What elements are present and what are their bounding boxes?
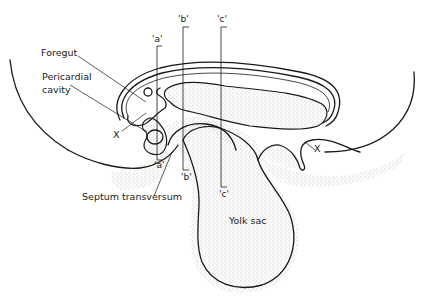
section-c-top-label: 'c' xyxy=(217,14,227,24)
label-foregut: Foregut xyxy=(41,47,78,58)
septum-mesoderm-stipple xyxy=(111,150,172,190)
label-septum-transversum: Septum transversum xyxy=(82,191,182,202)
label-x-left: X xyxy=(113,129,120,140)
label-yolk-sac: Yolk sac xyxy=(228,215,267,226)
section-a-bottom-label: 'a' xyxy=(154,160,164,170)
label-pericardial: Pericardial xyxy=(42,71,92,82)
section-a-top-label: 'a' xyxy=(152,34,162,44)
section-b-bottom-label: 'b' xyxy=(181,172,192,182)
label-cavity: cavity xyxy=(42,84,71,95)
pericardial-leader xyxy=(70,85,147,132)
foregut-bud xyxy=(144,88,152,96)
section-b-top-label: 'b' xyxy=(178,14,189,24)
label-x-right: X xyxy=(314,143,321,154)
section-c-bottom-label: 'c' xyxy=(219,189,229,199)
embryo-section-diagram: 'a' 'a' 'b' 'b' 'c' 'c' Foregut Pericard… xyxy=(0,0,427,303)
